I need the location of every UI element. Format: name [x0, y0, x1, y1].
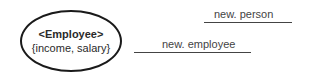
edge-label-new-person: new. person — [214, 8, 273, 20]
employee-node: <Employee> {income, salary} — [20, 10, 122, 72]
node-attributes: {income, salary} — [32, 41, 110, 55]
edge-line-new-person — [204, 22, 292, 23]
node-name: <Employee> — [39, 27, 104, 41]
edge-label-new-employee: new. employee — [162, 38, 235, 50]
edge-line-new-employee — [134, 52, 251, 53]
